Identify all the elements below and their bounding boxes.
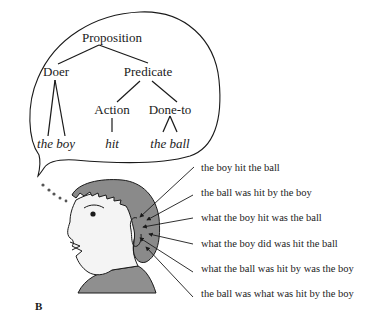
leaf-the-ball: the ball (150, 137, 189, 150)
leaf-hit: hit (105, 137, 119, 150)
node-predicate: Predicate (124, 65, 172, 78)
leaf-the-boy: the boy (37, 137, 75, 150)
sentence-1: the boy hit the ball (201, 163, 280, 174)
sentence-5: what the ball was hit by was the boy (201, 264, 354, 275)
sentence-2: the ball was hit by the boy (201, 188, 312, 199)
sentence-6: the ball was what was hit by the boy (201, 289, 354, 300)
node-done-to: Done-to (149, 103, 192, 116)
sentence-4: what the boy did was hit the ball (201, 239, 338, 250)
panel-label: B (35, 300, 42, 312)
node-action: Action (94, 103, 129, 116)
node-doer: Doer (43, 65, 69, 78)
sentence-3: what the boy hit was the ball (201, 213, 322, 224)
thought-dots (41, 183, 67, 202)
figure: Proposition Doer Predicate Action Done-t… (0, 0, 368, 321)
eye (90, 211, 95, 216)
node-proposition: Proposition (82, 31, 142, 44)
